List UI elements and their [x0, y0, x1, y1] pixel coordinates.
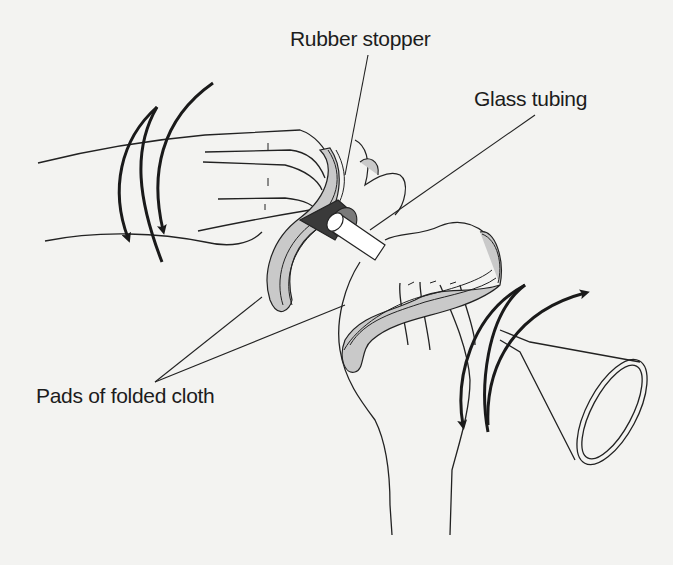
leader-line-pads-right: [155, 305, 345, 382]
leader-line-stopper: [345, 55, 368, 175]
label-glass-tubing: Glass tubing: [474, 88, 587, 109]
diagram-figure: Rubber stopper Glass tubing Pads of fold…: [0, 0, 673, 565]
glass-flask-shape: [500, 330, 661, 475]
label-pads-of-folded-cloth: Pads of folded cloth: [36, 385, 214, 406]
label-rubber-stopper: Rubber stopper: [290, 28, 431, 49]
illustration-canvas: [0, 0, 673, 565]
left-hand-illustration: [38, 130, 330, 245]
leader-line-pads-left: [155, 297, 262, 382]
leader-line-tubing: [370, 115, 535, 230]
rotation-arrows-left-icon: [119, 83, 213, 262]
